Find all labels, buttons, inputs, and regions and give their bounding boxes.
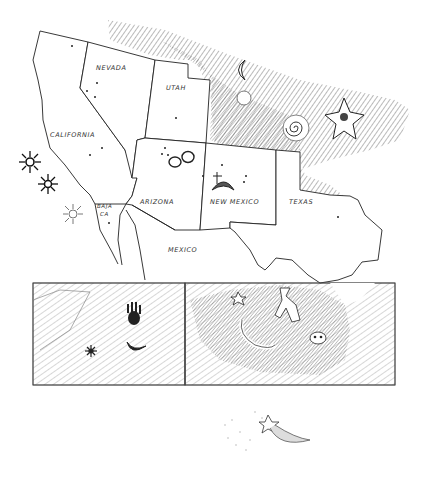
region-utah [145,60,210,143]
label-new-mexico: NEW MEXICO [210,198,259,206]
label-baja-line2: CA [100,211,109,217]
label-california: CALIFORNIA [50,131,95,139]
label-utah: UTAH [166,84,186,92]
sun-glyph-icon [38,174,58,194]
label-mexico: MEXICO [168,246,197,254]
label-baja-line1: BAJA [97,203,112,209]
southwest-petroglyph-map: NEVADA UTAH CALIFORNIA ARIZONA NEW MEXIC… [0,0,432,482]
map-drawing [0,0,432,482]
comet-sketch-icon [224,411,310,450]
disc-glyph-icon [237,91,251,105]
face-mask-glyph-icon [310,332,326,344]
inset-right-panel [185,283,395,385]
label-nevada: NEVADA [96,64,126,72]
label-texas: TEXAS [289,198,313,206]
inset-left-panel [33,283,185,385]
sketched-sun-glyph-icon [63,204,83,224]
region-arizona [126,138,206,230]
sun-glyph-icon [19,151,41,173]
label-arizona: ARIZONA [140,198,174,206]
region-new-mexico [200,143,276,230]
spiral-glyph-icon [283,115,309,141]
